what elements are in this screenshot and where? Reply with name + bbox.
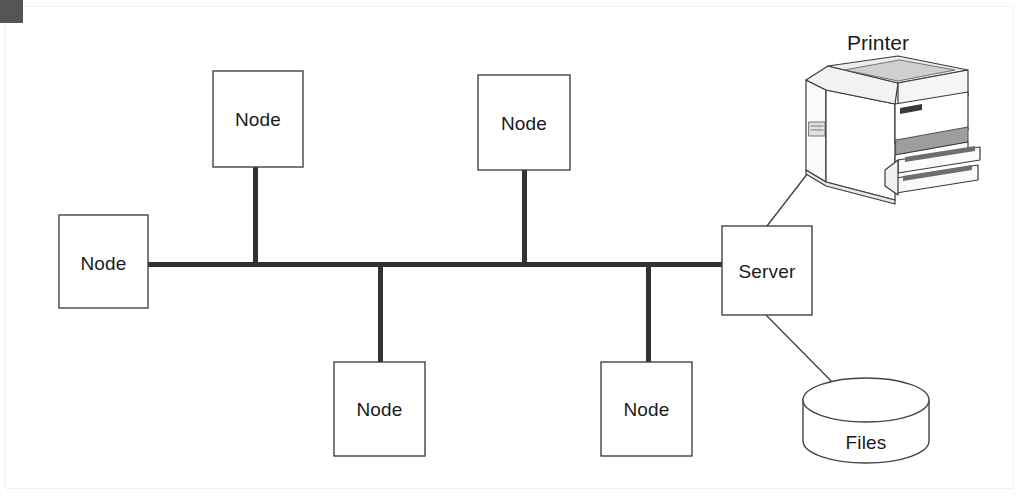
network-bus-group bbox=[148, 167, 724, 362]
node-label-top-2: Node bbox=[478, 113, 570, 135]
printer-label: Printer bbox=[778, 31, 978, 55]
printer-side-vent bbox=[809, 122, 825, 136]
node-label-left: Node bbox=[59, 253, 148, 275]
files-cylinder-top bbox=[803, 378, 929, 422]
server-label: Server bbox=[722, 261, 812, 283]
network-diagram-canvas bbox=[0, 0, 1021, 496]
link-server-files bbox=[766, 315, 840, 390]
node-label-bottom-1: Node bbox=[334, 399, 425, 421]
node-label-bottom-2: Node bbox=[601, 399, 692, 421]
files-label: Files bbox=[803, 432, 929, 454]
diagram-page: Node Node Node Node Node Server Files Pr… bbox=[0, 0, 1021, 496]
node-label-top-1: Node bbox=[213, 109, 303, 131]
